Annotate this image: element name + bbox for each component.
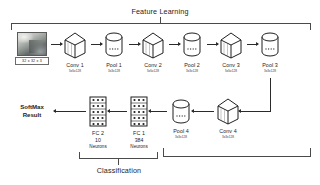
layer-fc-1 [129,95,149,128]
arrow-fc2-to-softmax [54,111,86,112]
layer-conv-3-dims: 5x5x128 [212,69,250,73]
layer-pool-4 [169,98,193,126]
layer-conv-4 [215,97,241,125]
layer-conv-1-dims: 5x5x128 [56,69,94,73]
layer-pool-1-dims: 3x3x128 [95,69,133,73]
layer-conv-2 [140,31,166,59]
layer-fc-2-label: FC 2 [79,130,117,136]
arrow-pool4-to-fc1 [149,111,167,112]
layer-conv-3 [218,31,244,59]
arrow-conv3-to-pool3 [247,44,258,45]
wire-pool3-to-conv4 [239,111,271,112]
classification-right-bracket [163,148,311,157]
softmax-line-2: Result [10,111,54,119]
layer-conv-4-dims: 3x3x128 [209,135,247,139]
feature-learning-title: Feature Learning [118,7,202,16]
input-dims-label: 32 x 32 x 3 [18,59,46,63]
layer-pool-4-dims: 3x3x128 [162,135,200,139]
layer-pool-1 [102,31,126,59]
layer-pool-3-dims: 3x3x128 [251,69,289,73]
layer-fc-1-count: 384 [120,137,158,143]
layer-fc-1-label: FC 1 [120,130,158,136]
classification-title: Classification [78,166,160,175]
feature-learning-bracket [11,23,311,30]
layer-conv-4-label: Conv 4 [209,128,247,134]
layer-fc-1-unit: Neurons [120,144,158,149]
wire-pool3-down [270,78,271,111]
softmax-line-1: SoftMax [10,103,54,111]
layer-conv-3-label: Conv 3 [212,62,250,68]
arrow-conv4-to-pool4 [192,111,214,112]
classification-bracket [79,152,158,159]
layer-fc-2 [88,95,108,128]
input-image [17,32,47,56]
arrow-conv2-to-pool2 [169,44,180,45]
layer-fc-2-unit: Neurons [79,144,117,149]
layer-pool-3 [258,31,282,59]
layer-fc-2-count: 10 [79,137,117,143]
layer-pool-2 [180,31,204,59]
arrow-pool1-to-conv2 [129,44,140,45]
layer-pool-4-label: Pool 4 [162,128,200,134]
layer-pool-2-label: Pool 2 [173,62,211,68]
layer-conv-1 [62,31,88,59]
arrow-input-to-conv1 [51,44,62,45]
arrow-pool2-to-conv3 [207,44,218,45]
layer-pool-3-label: Pool 3 [251,62,289,68]
arrow-fc1-to-fc2 [108,111,127,112]
cnn-architecture-diagram: Feature Learning 32 x 32 x 3 Conv 1 5x5x… [0,0,320,185]
layer-pool-2-dims: 3x3x128 [173,69,211,73]
layer-conv-2-dims: 5x5x128 [134,69,172,73]
arrow-conv1-to-pool1 [91,44,102,45]
classification-tick [118,159,119,165]
layer-conv-1-label: Conv 1 [56,62,94,68]
layer-pool-1-label: Pool 1 [95,62,133,68]
layer-conv-2-label: Conv 2 [134,62,172,68]
softmax-result-label: SoftMax Result [10,103,54,119]
